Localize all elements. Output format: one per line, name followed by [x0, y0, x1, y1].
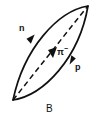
label-proton: p [75, 63, 81, 72]
figure-caption: B [46, 104, 53, 114]
neutron-arrowhead-icon [25, 32, 34, 44]
label-pion-charge: − [64, 45, 68, 52]
pion-track-path [13, 7, 87, 100]
particle-track-diagram [0, 0, 99, 120]
label-pion: π− [57, 48, 68, 57]
label-neutron: n [19, 24, 25, 33]
particle-track-figure: n π− p B [0, 0, 99, 120]
pion-arrowhead-icon [48, 47, 57, 58]
label-pion-symbol: π [57, 47, 64, 57]
